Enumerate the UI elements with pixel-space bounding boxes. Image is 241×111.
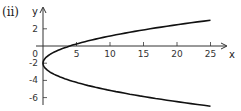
x-axis-label: x bbox=[229, 49, 235, 60]
y-tick-label: -4 bbox=[29, 75, 38, 85]
y-tick-label: -2 bbox=[29, 58, 38, 68]
parabola-chart: yx51015202520-2-4-6 bbox=[0, 0, 241, 111]
parabola-curve bbox=[43, 20, 211, 106]
y-tick-label: 2 bbox=[32, 24, 38, 34]
x-tick-label: 20 bbox=[171, 49, 183, 59]
y-tick-label: -6 bbox=[29, 93, 38, 103]
x-tick-label: 10 bbox=[104, 49, 116, 59]
x-tick-label: 15 bbox=[138, 49, 149, 59]
x-tick-label: 5 bbox=[74, 49, 80, 59]
y-axis-label: y bbox=[32, 6, 38, 17]
x-tick-label: 25 bbox=[205, 49, 216, 59]
